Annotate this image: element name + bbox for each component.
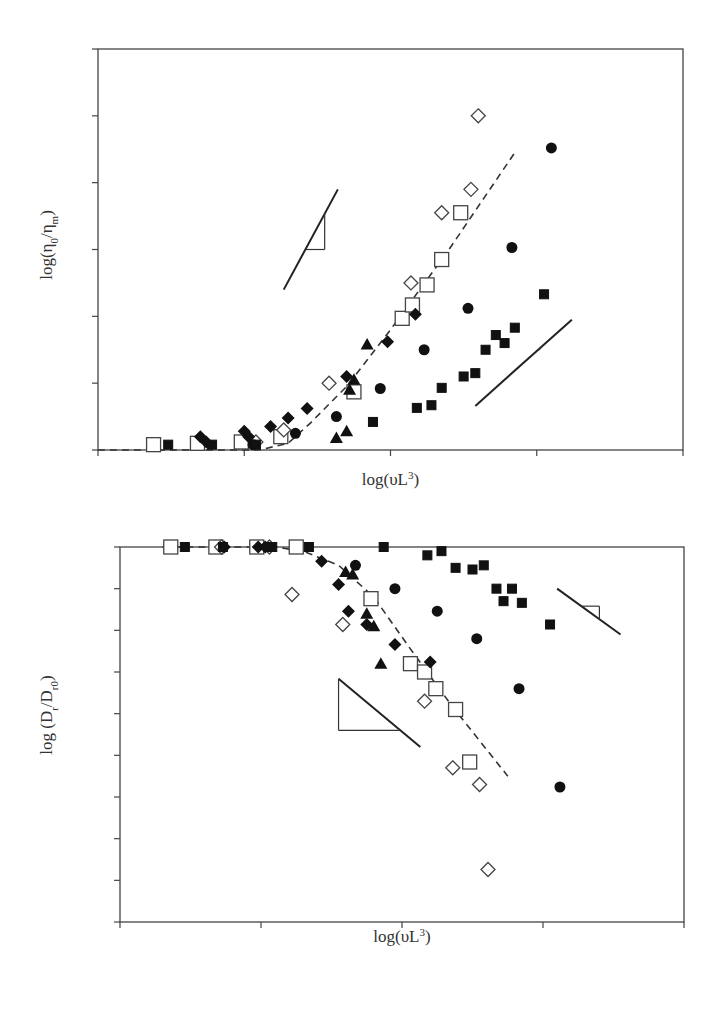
marker-square-filled — [427, 401, 436, 410]
marker-diamond-open — [435, 206, 449, 220]
marker-square-open — [429, 682, 443, 696]
marker-square-filled — [510, 323, 519, 332]
marker-square-filled — [379, 543, 388, 552]
marker-square-filled — [451, 563, 460, 572]
plot-frame — [120, 547, 684, 922]
y-axis-label: log(η0/ηm) — [37, 210, 60, 280]
marker-square-open — [147, 438, 161, 452]
marker-diamond-open — [404, 276, 418, 290]
marker-square-open — [435, 253, 449, 267]
x-axis-label: log(υL3) — [362, 469, 419, 489]
marker-diamond-open — [464, 182, 478, 196]
marker-square-filled — [251, 440, 260, 449]
marker-square-filled — [479, 561, 488, 570]
marker-circle-filled — [375, 383, 386, 394]
marker-triangle-filled — [340, 425, 353, 437]
marker-triangle-filled — [330, 431, 343, 443]
marker-diamond-filled — [342, 605, 355, 618]
x-axis-label: log(υL3) — [373, 926, 430, 946]
marker-square-filled — [500, 339, 509, 348]
slope-line — [475, 320, 572, 406]
marker-square-filled — [499, 597, 508, 606]
marker-diamond-open — [473, 778, 487, 792]
marker-diamond-filled — [301, 402, 314, 415]
dashed-fit-line — [162, 547, 508, 776]
marker-square-filled — [459, 372, 468, 381]
marker-square-filled — [180, 543, 189, 552]
marker-square-filled — [437, 383, 446, 392]
marker-circle-filled — [419, 344, 430, 355]
marker-square-filled — [437, 547, 446, 556]
marker-square-open — [420, 278, 434, 292]
marker-circle-filled — [463, 303, 474, 314]
marker-circle-filled — [471, 633, 482, 644]
marker-triangle-filled — [374, 657, 387, 669]
marker-square-filled — [471, 369, 480, 378]
marker-circle-filled — [554, 782, 565, 793]
y-axis-label: log (Dr/Dr0) — [37, 675, 60, 754]
marker-circle-filled — [331, 411, 342, 422]
marker-square-filled — [304, 543, 313, 552]
marker-square-filled — [517, 598, 526, 607]
marker-circle-filled — [432, 606, 443, 617]
marker-square-open — [364, 592, 378, 606]
slope-line — [557, 589, 620, 635]
slope-line — [339, 679, 421, 747]
marker-diamond-open — [336, 618, 350, 632]
plot-frame — [98, 49, 683, 450]
marker-diamond-open — [471, 109, 485, 123]
marker-square-filled — [164, 440, 173, 449]
marker-circle-filled — [389, 583, 400, 594]
marker-square-filled — [208, 440, 217, 449]
marker-square-filled — [218, 543, 227, 552]
marker-diamond-filled — [381, 335, 394, 348]
marker-square-filled — [468, 565, 477, 574]
marker-diamond-filled — [332, 578, 345, 591]
panel-b-chart: log(υL3)log (Dr/Dr0) — [37, 540, 684, 946]
marker-square-open — [449, 703, 463, 717]
marker-circle-filled — [546, 142, 557, 153]
marker-square-open — [164, 540, 178, 554]
marker-square-open — [403, 657, 417, 671]
marker-circle-filled — [350, 560, 361, 571]
marker-square-filled — [481, 345, 490, 354]
marker-diamond-open — [481, 863, 495, 877]
marker-square-open — [463, 755, 477, 769]
marker-square-open — [395, 311, 409, 325]
marker-diamond-open — [446, 761, 460, 775]
marker-diamond-filled — [388, 638, 401, 651]
slope-line — [284, 189, 338, 289]
marker-triangle-filled — [360, 607, 373, 619]
marker-square-filled — [368, 417, 377, 426]
marker-square-open — [454, 206, 468, 220]
marker-square-filled — [540, 290, 549, 299]
panel-a-chart: log(υL3)log(η0/ηm) — [37, 49, 683, 489]
marker-square-filled — [268, 543, 277, 552]
marker-square-open — [289, 540, 303, 554]
marker-triangle-filled — [361, 338, 374, 350]
marker-square-filled — [423, 551, 432, 560]
marker-square-filled — [492, 584, 501, 593]
marker-circle-filled — [290, 428, 301, 439]
marker-square-filled — [412, 403, 421, 412]
marker-circle-filled — [506, 242, 517, 253]
marker-diamond-open — [322, 376, 336, 390]
marker-square-filled — [491, 331, 500, 340]
marker-diamond-open — [285, 588, 299, 602]
marker-circle-filled — [514, 683, 525, 694]
figure: log(υL3)log(η0/ηm) log(υL3)log (Dr/Dr0) — [0, 0, 723, 1029]
marker-square-filled — [546, 620, 555, 629]
marker-square-filled — [507, 584, 516, 593]
